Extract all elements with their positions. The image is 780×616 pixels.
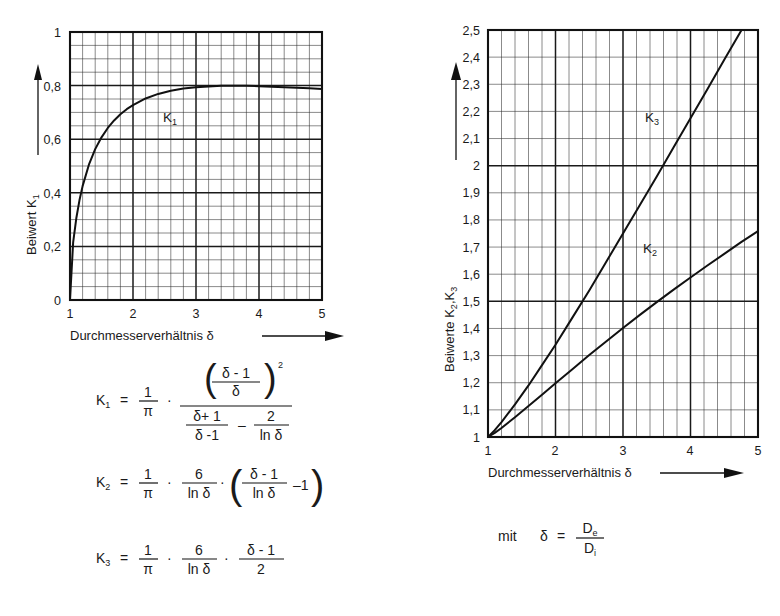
right-y-tick-12: 1,3 [463, 349, 480, 363]
right-y-tick-4: 2,1 [463, 132, 480, 146]
right-x-axis-arrow-icon [660, 468, 744, 478]
right-y-tick-1: 2,4 [463, 51, 480, 65]
formula-k1-den-b-den: ln δ [260, 427, 283, 443]
formula-k1-inner-num: δ - 1 [222, 365, 250, 381]
formula-k2-paren-close: ) [311, 463, 324, 507]
left-chart-x-ticks: 1 2 3 4 5 [67, 307, 326, 321]
note-num: De [582, 520, 597, 538]
right-y-tick-2: 2,3 [463, 78, 480, 92]
left-y-tick-4: 0,2 [44, 240, 61, 254]
formula-k2-f2-den: ln δ [188, 485, 211, 501]
right-y-tick-9: 1,6 [463, 268, 480, 282]
right-x-tick-3: 4 [687, 444, 694, 458]
formula-k2-f3-den: ln δ [253, 485, 276, 501]
right-y-axis-arrow-icon [451, 62, 461, 160]
note-equals: = [557, 528, 565, 544]
right-y-axis-label: Beiwerte K2,K3 [442, 287, 459, 372]
formula-k2-f1-num: 1 [144, 466, 152, 482]
note-delta-definition: mit δ = De Di [498, 520, 604, 558]
curve-k3 [488, 30, 742, 437]
formula-k3: K3 = 1 π · 6 ln δ · δ - 1 2 [96, 542, 284, 577]
left-y-axis-arrow-icon [34, 64, 42, 155]
formula-k3-dot1: · [167, 550, 172, 566]
formula-k2-dot2: · [220, 474, 225, 490]
figure-canvas: 1 0,8 0,6 0,4 0,2 0 1 2 3 4 5 Beiwert K1… [0, 0, 780, 616]
formula-k1-inner-den: δ [232, 383, 240, 399]
right-y-tick-3: 2,2 [463, 105, 480, 119]
right-y-tick-5: 2 [473, 159, 480, 173]
left-x-tick-1: 2 [130, 307, 137, 321]
formula-k2-paren-open: ( [229, 463, 243, 507]
right-y-tick-14: 1,1 [463, 403, 480, 417]
formula-k1: K1 = 1 π · δ - 1 δ ( ) 2 δ+ 1 δ -1 – 2 l… [96, 357, 292, 443]
formula-k1-equals: = [120, 392, 128, 408]
formula-k2-f2-num: 6 [195, 466, 203, 482]
right-chart-y-ticks: 2,52,42,32,22,121,91,81,71,61,51,41,31,2… [463, 24, 480, 445]
left-x-tick-4: 5 [319, 307, 326, 321]
left-y-tick-1: 0,8 [44, 80, 61, 94]
formula-k2-tail: –1 [293, 477, 309, 493]
formula-k2-lhs: K2 [96, 474, 110, 492]
formula-k2: K2 = 1 π · 6 ln δ · ( δ - 1 ln δ –1 ) [96, 463, 324, 507]
left-x-axis-label: Durchmesserverhältnis δ [70, 328, 214, 343]
left-chart-y-ticks: 1 0,8 0,6 0,4 0,2 0 [44, 26, 61, 308]
left-x-tick-2: 3 [193, 307, 200, 321]
formula-k3-f2-num: 6 [195, 542, 203, 558]
formula-k1-paren-close: ) [264, 357, 277, 399]
right-chart-x-ticks: 1 2 3 4 5 [485, 444, 762, 458]
formula-k3-lhs: K3 [96, 550, 110, 568]
right-y-tick-0: 2,5 [463, 24, 480, 38]
formula-k1-den-a-num: δ+ 1 [193, 408, 221, 424]
formula-k3-f3-den: 2 [257, 561, 265, 577]
right-x-axis-label: Durchmesserverhältnis δ [488, 465, 632, 480]
formula-k1-dot1: · [167, 392, 172, 408]
left-x-tick-3: 4 [256, 307, 263, 321]
formula-k3-equals: = [120, 550, 128, 566]
right-y-tick-10: 1,5 [463, 295, 480, 309]
left-y-tick-2: 0,6 [44, 133, 61, 147]
left-x-tick-0: 1 [67, 307, 74, 321]
formula-k1-den-a-den: δ -1 [195, 427, 219, 443]
formula-k2-equals: = [120, 474, 128, 490]
right-y-tick-13: 1,2 [463, 376, 480, 390]
left-y-tick-5: 0 [54, 294, 61, 308]
left-y-tick-0: 1 [54, 26, 61, 40]
formula-k1-lhs: K1 [96, 392, 110, 410]
left-chart-gridlines [70, 32, 322, 300]
right-y-tick-6: 1,9 [463, 186, 480, 200]
formula-k1-minus: – [238, 417, 246, 433]
curve-label-k2: K2 [643, 241, 657, 258]
left-chart: 1 0,8 0,6 0,4 0,2 0 1 2 3 4 5 Beiwert K1… [24, 26, 344, 343]
left-y-axis-label: Beiwert K1 [24, 194, 41, 255]
note-den: Di [584, 540, 596, 558]
formula-k3-f1-num: 1 [144, 542, 152, 558]
note-mit: mit [498, 528, 517, 544]
formula-k3-f1-den: π [143, 561, 153, 577]
formula-k1-f1-num: 1 [144, 384, 152, 400]
left-y-tick-3: 0,4 [44, 187, 61, 201]
formula-k2-f1-den: π [143, 485, 153, 501]
formula-k1-exponent: 2 [278, 360, 283, 370]
formula-k1-den-b-num: 2 [267, 408, 275, 424]
formula-k3-f3-num: δ - 1 [247, 542, 275, 558]
note-delta: δ [540, 528, 548, 544]
right-x-tick-4: 5 [755, 444, 762, 458]
formula-k1-paren-open: ( [204, 357, 217, 399]
right-y-tick-8: 1,7 [463, 241, 480, 255]
right-y-tick-15: 1 [473, 431, 480, 445]
right-chart: 2,52,42,32,22,121,91,81,71,61,51,41,31,2… [442, 24, 762, 481]
left-x-axis-arrow-icon [262, 331, 344, 341]
curve-label-k3: K3 [645, 110, 659, 127]
formula-k2-f3-num: δ - 1 [250, 466, 278, 482]
formula-k3-dot2: · [224, 550, 229, 566]
formula-k3-f2-den: ln δ [188, 561, 211, 577]
right-y-tick-7: 1,8 [463, 213, 480, 227]
right-x-tick-2: 3 [620, 444, 627, 458]
formula-k1-f1-den: π [143, 403, 153, 419]
right-y-tick-11: 1,4 [463, 322, 480, 336]
right-x-tick-0: 1 [485, 444, 492, 458]
formula-k2-dot1: · [167, 474, 172, 490]
right-x-tick-1: 2 [552, 444, 559, 458]
